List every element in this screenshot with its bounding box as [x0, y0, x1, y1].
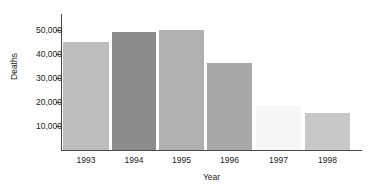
- bar-1997: [256, 106, 301, 150]
- bar-1993: [63, 42, 109, 150]
- x-tick-label-1994: 1994: [112, 155, 156, 165]
- y-tick-10000: 10,000: [0, 122, 62, 131]
- x-tick-label-1998: 1998: [305, 155, 350, 165]
- y-tick-label-20000: 20,000: [16, 98, 62, 107]
- x-tick-label-1993: 1993: [63, 155, 109, 165]
- y-tick-label-50000: 50,000: [16, 26, 62, 35]
- y-tick-50000: 50,000: [0, 26, 62, 35]
- y-tick-30000: 30,000: [0, 74, 62, 83]
- y-tick-label-40000: 40,000: [16, 50, 62, 59]
- x-tick-label-1995: 1995: [159, 155, 204, 165]
- bar-chart: Deaths 50,000 40,000 30,000 20,000 10,00…: [0, 0, 371, 193]
- x-tick-label-1996: 1996: [207, 155, 252, 165]
- bar-1994: [112, 32, 156, 150]
- y-axis-title: Deaths: [10, 37, 19, 97]
- y-tick-20000: 20,000: [0, 98, 62, 107]
- bar-1995: [159, 30, 204, 150]
- y-tick-40000: 40,000: [0, 50, 62, 59]
- x-axis-title: Year: [61, 172, 362, 182]
- x-axis-line: [61, 150, 362, 151]
- bar-1998: [305, 113, 350, 150]
- bar-1996: [207, 63, 252, 150]
- plot-area: [62, 14, 362, 150]
- y-tick-label-10000: 10,000: [16, 122, 62, 131]
- x-tick-label-1997: 1997: [256, 155, 301, 165]
- y-tick-label-30000: 30,000: [16, 74, 62, 83]
